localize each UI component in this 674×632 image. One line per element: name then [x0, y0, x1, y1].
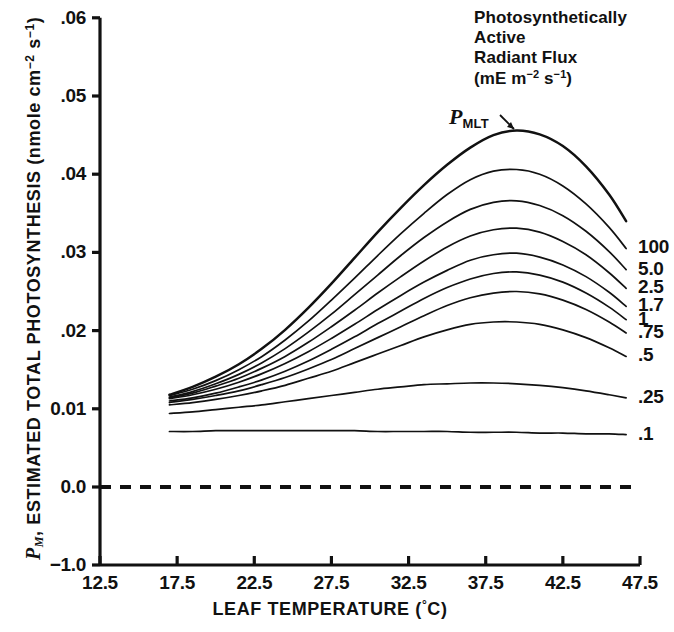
y-tick-label: .04 [0, 163, 86, 185]
curve-100 [169, 169, 626, 395]
x-tick-label: 42.5 [523, 572, 603, 594]
curve-label-100: 100 [638, 236, 669, 258]
legend-units: (mE m−2 s−1) [474, 68, 627, 89]
legend-line-3: Radiant Flux [474, 48, 627, 68]
x-tick-label: 12.5 [60, 572, 140, 594]
pmlt-arrow-icon [500, 115, 514, 129]
pmlt-annotation: PMLT [449, 104, 489, 131]
legend-line-2: Active [474, 28, 627, 48]
y-tick-label: .02 [0, 320, 86, 342]
curve-.1 [169, 431, 626, 435]
curve-1 [169, 272, 626, 401]
curve-label-.5: .5 [638, 344, 653, 366]
x-tick-label: 17.5 [137, 572, 217, 594]
y-tick-label: .03 [0, 241, 86, 263]
curve-label-.1: .1 [638, 423, 653, 445]
legend-line-1: Photosynthetically [474, 8, 627, 28]
x-tick-label: 47.5 [600, 572, 674, 594]
data-curves [169, 130, 626, 434]
x-tick-label: 32.5 [369, 572, 449, 594]
y-tick-label: 0.0 [0, 476, 86, 498]
curve-1.7 [169, 253, 626, 399]
x-tick-label: 22.5 [214, 572, 294, 594]
legend-heading: Photosynthetically Active Radiant Flux (… [474, 8, 627, 89]
y-tick-label: 0.01 [0, 398, 86, 420]
y-tick-label: .05 [0, 85, 86, 107]
y-tick-label: .06 [0, 7, 86, 29]
curve-label-.25: .25 [638, 386, 664, 408]
axes [92, 18, 640, 565]
curve-label-.75: .75 [638, 321, 664, 343]
x-tick-label: 37.5 [446, 572, 526, 594]
x-tick-label: 27.5 [291, 572, 371, 594]
curve-.5 [169, 322, 626, 405]
x-axis-title: LEAF TEMPERATURE (°C) [0, 598, 660, 620]
